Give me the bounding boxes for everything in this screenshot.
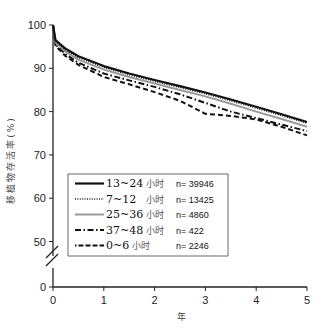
series-layer bbox=[53, 25, 307, 135]
legend-n-count: n= 4860 bbox=[176, 210, 209, 220]
legend-unit: 小时 bbox=[132, 240, 150, 251]
legend-unit: 小时 bbox=[146, 209, 164, 220]
y-tick-label: 90 bbox=[34, 62, 46, 74]
y-tick-label: 0 bbox=[40, 281, 46, 293]
legend-range: 25~36 bbox=[106, 208, 143, 221]
y-tick-label: 100 bbox=[28, 19, 46, 31]
x-tick-label: 5 bbox=[304, 294, 310, 306]
series-line bbox=[53, 25, 307, 123]
y-tick-label: 80 bbox=[34, 106, 46, 118]
series-line bbox=[53, 25, 307, 122]
y-tick-label: 50 bbox=[34, 236, 46, 248]
y-tick-label: 60 bbox=[34, 192, 46, 204]
x-axis-title: 年 bbox=[177, 311, 186, 322]
x-tick-label: 3 bbox=[202, 294, 208, 306]
x-tick-label: 4 bbox=[253, 294, 259, 306]
legend-range: 37~48 bbox=[106, 224, 143, 237]
y-tick-label: 70 bbox=[34, 149, 46, 161]
legend-n-count: n= 2246 bbox=[176, 241, 209, 251]
legend-n-count: n= 13425 bbox=[176, 195, 214, 205]
legend-n-count: n= 422 bbox=[176, 226, 204, 236]
legend-range: 13~24 bbox=[106, 177, 143, 190]
y-ticks: 05060708090100 bbox=[28, 19, 53, 293]
x-ticks: 012345 bbox=[50, 287, 310, 306]
legend: 13~24小时n= 399467~12小时n= 1342525~36小时n= 4… bbox=[68, 174, 228, 256]
x-tick-label: 2 bbox=[152, 294, 158, 306]
x-tick-label: 1 bbox=[101, 294, 107, 306]
legend-range: 7~12 bbox=[106, 193, 136, 206]
legend-n-count: n= 39946 bbox=[176, 179, 214, 189]
x-tick-label: 0 bbox=[50, 294, 56, 306]
series-line bbox=[53, 25, 307, 135]
y-axis-title: 移植物存活率(%) bbox=[5, 116, 16, 204]
axis-break-icon bbox=[46, 246, 58, 266]
y-axis: 05060708090100 bbox=[28, 19, 58, 293]
survival-chart: 05060708090100 012345 年 移植物存活率(%) 13~24小… bbox=[0, 0, 321, 332]
legend-range: 0~6 bbox=[106, 239, 129, 252]
legend-unit: 小时 bbox=[146, 178, 164, 189]
x-axis: 012345 bbox=[50, 287, 310, 306]
legend-unit: 小时 bbox=[146, 225, 164, 236]
legend-unit: 小时 bbox=[146, 194, 164, 205]
